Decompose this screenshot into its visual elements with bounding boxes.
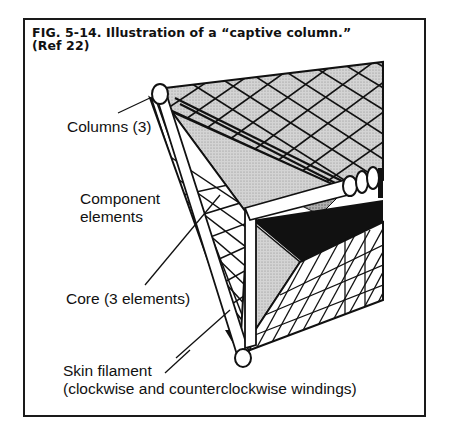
column-vertical <box>245 208 256 348</box>
label-core: Core (3 elements) <box>66 290 190 308</box>
leader-columns <box>118 97 152 113</box>
label-skin-line2: (clockwise and counterclockwise windings… <box>63 380 357 397</box>
label-component-elements: Component elements <box>80 190 160 226</box>
label-skin-line1: Skin filament <box>63 362 152 379</box>
leader-core <box>176 310 230 358</box>
label-component-line1: Component <box>80 190 160 207</box>
label-columns: Columns (3) <box>67 118 151 136</box>
label-skin-filament: Skin filament (clockwise and countercloc… <box>63 362 357 398</box>
label-component-line2: elements <box>80 208 143 225</box>
